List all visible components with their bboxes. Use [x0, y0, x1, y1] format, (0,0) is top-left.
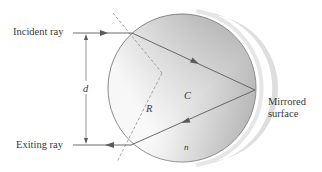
mirrored-surface-label-line2: surface	[268, 108, 299, 119]
sphere-shading	[108, 14, 256, 162]
center-label: C	[184, 90, 192, 101]
mirrored-surface-label-line1: Mirrored	[268, 96, 307, 107]
distance-label: d	[83, 83, 89, 94]
radius-label: R	[145, 103, 153, 114]
incident-ray-label: Incident ray	[13, 26, 64, 37]
index-label: n	[184, 142, 189, 152]
distance-arrow-down-icon	[84, 138, 88, 144]
incident-ray-arrow-icon	[100, 30, 108, 36]
distance-arrow-up-icon	[84, 34, 88, 40]
exiting-ray-label: Exiting ray	[16, 139, 64, 150]
exiting-ray-arrow-icon	[105, 142, 114, 148]
sphere-retroreflector-diagram: Incident ray Exiting ray Mirrored surfac…	[0, 0, 322, 172]
